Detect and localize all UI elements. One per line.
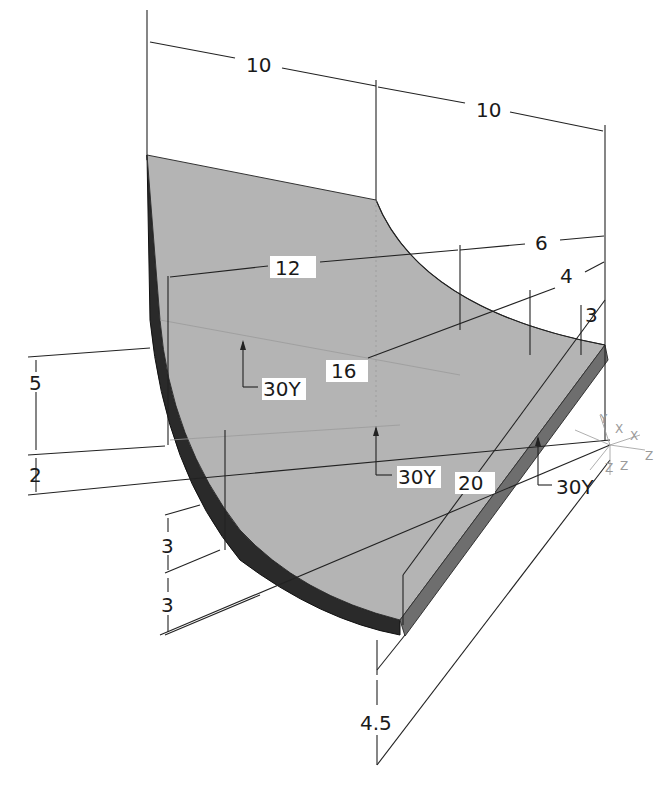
svg-text:12: 12 — [275, 256, 300, 280]
svg-text:Y: Y — [599, 412, 608, 426]
svg-text:10: 10 — [476, 98, 501, 122]
dim-4-5: 4.5 — [360, 711, 392, 735]
svg-text:Z: Z — [605, 461, 613, 475]
dim-16: 16 — [331, 359, 356, 383]
svg-text:6: 6 — [535, 231, 548, 255]
svg-text:Z: Z — [620, 459, 628, 473]
svg-text:3: 3 — [585, 303, 598, 327]
svg-text:Z: Z — [645, 449, 653, 463]
dim-3-right: 3 — [585, 303, 598, 327]
svg-text:30Y: 30Y — [398, 465, 436, 489]
svg-text:30Y: 30Y — [263, 377, 301, 401]
svg-text:X: X — [615, 422, 623, 436]
dim-3-left-lower: 3 — [161, 593, 174, 617]
svg-text:3: 3 — [161, 534, 174, 558]
dim-6: 6 — [535, 231, 548, 255]
dim-20: 20 — [458, 471, 483, 495]
angle-30y-right: 30Y — [556, 475, 594, 499]
angle-30y-left: 30Y — [263, 377, 301, 401]
svg-text:X: X — [630, 429, 638, 443]
svg-text:20: 20 — [458, 471, 483, 495]
dim-4-upper: 4 — [560, 264, 573, 288]
angle-30y-center: 30Y — [398, 465, 436, 489]
svg-text:4.5: 4.5 — [360, 711, 392, 735]
drawing-canvas: 10 10 12 6 16 4 3 20 5 2 — [0, 0, 668, 785]
dim-12: 12 — [275, 256, 300, 280]
dim-2: 2 — [29, 463, 42, 487]
svg-text:5: 5 — [29, 371, 42, 395]
svg-text:30Y: 30Y — [556, 475, 594, 499]
dim-5: 5 — [29, 371, 42, 395]
dim-10-right: 10 — [476, 98, 501, 122]
isometric-drawing: 10 10 12 6 16 4 3 20 5 2 — [0, 0, 668, 785]
svg-text:16: 16 — [331, 359, 356, 383]
dim-3-left-upper: 3 — [161, 534, 174, 558]
svg-text:3: 3 — [161, 593, 174, 617]
svg-text:10: 10 — [246, 53, 271, 77]
axis-triad-icon: Y X X Z Z Z — [575, 412, 653, 475]
svg-text:2: 2 — [29, 463, 42, 487]
svg-text:4: 4 — [560, 264, 573, 288]
top-face — [147, 155, 605, 620]
dim-10-left: 10 — [246, 53, 271, 77]
